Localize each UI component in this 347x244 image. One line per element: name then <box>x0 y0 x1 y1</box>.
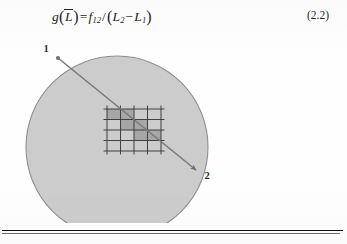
equation-denominator-close-paren: ) <box>146 8 152 25</box>
point-1-label: 1 <box>43 43 48 54</box>
equation-number: (2.2) <box>307 9 329 21</box>
equation-lhs-function: g <box>52 9 59 24</box>
grid-cell-shaded <box>107 109 121 120</box>
equation-expression: g(L)=f12/(L2−L1) <box>52 8 152 26</box>
equation-lhs-arg: L <box>64 9 73 24</box>
ray-start-point <box>56 56 60 60</box>
point-2-label: 2 <box>204 170 209 181</box>
equation-row: g(L)=f12/(L2−L1) (2.2) <box>0 8 347 36</box>
equation-minus: − <box>124 9 134 24</box>
document-page: g(L)=f12/(L2−L1) (2.2) 1 2 <box>0 0 347 244</box>
page-footer-rule <box>2 230 343 231</box>
equation-equals: = <box>79 9 89 24</box>
figure-container: 1 2 <box>0 38 347 223</box>
equation-numerator-subscript: 12 <box>93 15 102 25</box>
page-footer-rule-shadow <box>2 233 340 234</box>
grid-cell-shaded <box>121 120 135 131</box>
ray-through-circle-grid-diagram: 1 2 <box>0 38 347 223</box>
equation-lhs-close-paren: ) <box>73 8 79 25</box>
grid-cell-shaded <box>134 130 148 141</box>
circle-domain <box>26 56 208 223</box>
equation-denominator-second: L <box>134 9 142 24</box>
